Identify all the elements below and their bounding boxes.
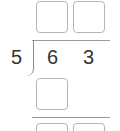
subtraction-line	[32, 117, 110, 118]
division-bar	[32, 40, 110, 41]
step2-tens-input[interactable]	[36, 123, 68, 131]
quotient-tens-input[interactable]	[36, 1, 68, 33]
division-bracket	[26, 40, 34, 76]
dividend-digit-tens: 6	[47, 47, 58, 67]
step2-ones-input[interactable]	[73, 123, 105, 131]
quotient-ones-input[interactable]	[73, 1, 105, 33]
dividend-digit-ones: 3	[83, 47, 94, 67]
divisor: 5	[11, 47, 22, 67]
step1-product-input[interactable]	[36, 78, 68, 110]
